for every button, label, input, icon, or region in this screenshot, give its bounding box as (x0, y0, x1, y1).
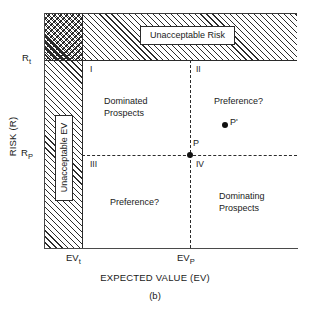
y-tick-label-rp: RP (21, 147, 33, 158)
x-axis-title: EXPECTED VALUE (EV) (0, 272, 310, 283)
x-tick-label-evp: EVP (177, 252, 195, 263)
quadrant-numeral-iv: IV (196, 159, 204, 169)
x-axis-line (44, 248, 298, 249)
unacceptable-ev-label-box: Unacceptable EV (55, 115, 73, 201)
region-label-dominating-prospects: Dominating Prospects (219, 190, 265, 214)
x-tick-evp-sub: P (190, 257, 195, 266)
quadrant-numeral-ii: II (196, 64, 201, 74)
unacceptable-risk-label: Unacceptable Risk (140, 26, 235, 45)
risk-expected-value-diagram: Unacceptable Risk Unacceptable EV I II I… (0, 0, 310, 309)
y-axis-line (44, 13, 45, 249)
region-label-line-1: Dominating (219, 190, 265, 202)
region-label-line-2: Prospects (219, 202, 265, 214)
unacceptable-overlap-band (44, 13, 82, 60)
region-label-preference-ii: Preference? (214, 95, 263, 107)
data-point-p-prime (222, 122, 228, 128)
x-tick-evt-sub: t (79, 257, 81, 266)
y-tick-label-rt: Rt (22, 52, 31, 63)
x-tick-evt-base: EV (66, 252, 79, 263)
region-label-preference-iii: Preference? (110, 196, 159, 208)
x-tick-evp-base: EV (177, 252, 190, 263)
region-label-line-2: Prospects (104, 107, 148, 119)
data-point-p (187, 152, 193, 158)
data-point-p-label: P (193, 138, 199, 148)
figure-caption: (b) (0, 290, 310, 301)
y-axis-title: RISK (R) (7, 97, 18, 177)
x-tick-label-evt: EVt (66, 252, 81, 263)
y-tick-rt-sub: t (29, 57, 31, 66)
unacceptable-ev-label: Unacceptable EV (60, 116, 69, 200)
y-tick-rp-sub: P (28, 152, 33, 161)
quadrant-numeral-iii: III (90, 159, 97, 169)
region-label-line-1: Dominated (104, 95, 148, 107)
region-label-dominated-prospects: Dominated Prospects (104, 95, 148, 119)
quadrant-numeral-i: I (90, 64, 92, 74)
ev-threshold-line (82, 13, 83, 248)
y-tick-rt-base: R (22, 52, 29, 63)
data-point-p-prime-label: P' (230, 117, 238, 127)
y-tick-rp-base: R (21, 147, 28, 158)
